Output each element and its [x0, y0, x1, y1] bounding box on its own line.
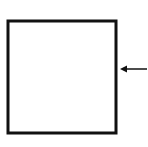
left-arrow-icon: [120, 66, 147, 73]
square-shape: [8, 21, 116, 133]
diagram-canvas: [0, 0, 148, 147]
